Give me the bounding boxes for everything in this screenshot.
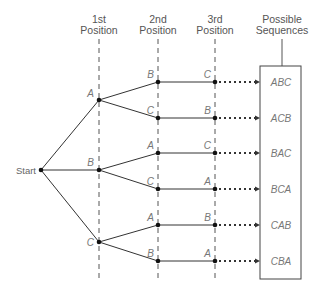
level1-label: C (87, 237, 95, 248)
level1-label: B (87, 157, 94, 168)
level1-label: A (86, 88, 94, 99)
header-1st-line2: Position (80, 24, 118, 36)
level3-label: B (204, 212, 211, 223)
sequence-item: ABC (270, 77, 292, 88)
sequences-box (260, 66, 301, 279)
dotted-arrows (219, 82, 256, 261)
tree-diagram: 1st Position 2nd Position 3rd Position P… (0, 0, 315, 297)
arrowheads (255, 80, 260, 264)
level2-label: A (146, 212, 154, 223)
level2-label: B (147, 69, 154, 80)
header-sequences-line2: Sequences (256, 24, 309, 36)
level2-label: C (147, 105, 155, 116)
level2-label: C (147, 176, 155, 187)
header-3rd-line2: Position (196, 24, 234, 36)
level3-label: B (204, 105, 211, 116)
sequence-item: CBA (271, 256, 292, 267)
sequence-item: ACB (270, 113, 292, 124)
sequence-item: CAB (271, 220, 292, 231)
column-headers: 1st Position 2nd Position 3rd Position P… (80, 13, 308, 36)
tree-nodes (39, 80, 218, 264)
level3-label: A (203, 248, 211, 259)
start-label: Start (16, 165, 36, 176)
tree-edges (41, 82, 215, 261)
position-guides (99, 39, 215, 282)
sequence-item: BCA (271, 184, 292, 195)
level2-label: B (147, 248, 154, 259)
level3-label: C (204, 140, 212, 151)
level2-label: A (146, 140, 154, 151)
level3-label: A (203, 176, 211, 187)
sequence-item: BAC (271, 148, 292, 159)
header-2nd-line2: Position (139, 24, 177, 36)
start-node (39, 168, 44, 173)
level3-label: C (204, 69, 212, 80)
